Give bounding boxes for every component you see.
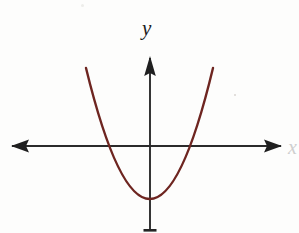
x-axis-label: x: [288, 137, 297, 157]
faint-speck-upper-right: [234, 94, 236, 96]
y-axis-bottom-tick: [144, 229, 157, 232]
y-axis-up-arrowhead: [144, 56, 156, 76]
graph-figure: y x: [0, 0, 299, 233]
y-axis-label: y: [142, 18, 151, 39]
faint-speck-top-center: [81, 4, 84, 7]
